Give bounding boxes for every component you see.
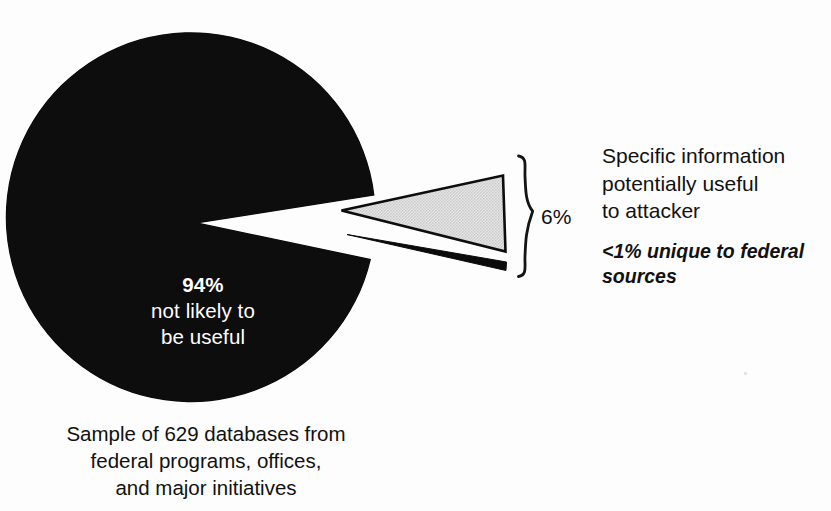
callout-main-line-2: potentially useful	[602, 170, 828, 198]
callout-main-line-1: Specific information	[602, 142, 828, 170]
callout-sub-line-2: sources	[602, 264, 828, 289]
caption-line-2: federal programs, offices,	[20, 447, 392, 474]
callout-annotation: Specific information potentially useful …	[602, 142, 828, 289]
caption-line-1: Sample of 629 databases from	[20, 420, 392, 447]
callout-main-line-3: to attacker	[602, 197, 828, 225]
callout-percent-6: 6%	[541, 204, 571, 229]
callout-main-text: Specific information potentially useful …	[602, 142, 828, 225]
caption-line-3: and major initiatives	[20, 474, 392, 501]
brace-6-percent	[519, 156, 533, 277]
pie-chart-figure: 94% not likely to be useful 6% Specific …	[0, 0, 831, 511]
figure-caption: Sample of 629 databases from federal pro…	[20, 420, 392, 501]
callout-sub-text: <1% unique to federal sources	[602, 239, 828, 289]
pie-slice-not-likely-useful	[6, 32, 375, 402]
callout-sub-line-1: <1% unique to federal	[602, 239, 828, 264]
